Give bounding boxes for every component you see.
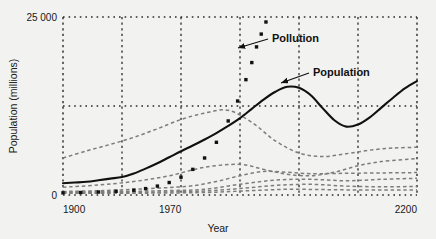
pollution-marker <box>61 191 64 194</box>
pollution-marker <box>156 184 159 187</box>
x-tick-label-1970: 1970 <box>159 204 182 215</box>
pollution-marker <box>215 141 218 144</box>
pollution-marker <box>227 119 230 122</box>
pollution-marker <box>203 156 206 159</box>
pollution-marker <box>168 181 171 184</box>
pollution-marker <box>79 191 82 194</box>
pollution-marker <box>264 20 267 23</box>
y-tick-label-min: 0 <box>51 190 57 201</box>
x-tick-label-1900: 1900 <box>63 204 86 215</box>
y-axis-title: Population (millions) <box>7 59 19 154</box>
population-annotation-label: Population <box>313 66 370 78</box>
chart-figure: PollutionPopulation 25 000 0 1900 1970 2… <box>0 0 436 239</box>
pollution-annotation-label: Pollution <box>272 32 319 44</box>
pollution-marker <box>144 187 147 190</box>
pollution-marker <box>255 45 258 48</box>
pollution-marker <box>236 99 239 102</box>
pollution-marker <box>250 61 253 64</box>
pollution-marker <box>179 176 182 179</box>
world-model-chart: PollutionPopulation 25 000 0 1900 1970 2… <box>0 0 436 239</box>
y-tick-label-max: 25 000 <box>26 12 57 23</box>
x-tick-label-2200: 2200 <box>395 204 418 215</box>
x-axis-title: Year <box>207 222 229 234</box>
pollution-marker <box>191 168 194 171</box>
pollution-marker <box>244 78 247 81</box>
pollution-marker <box>132 188 135 191</box>
pollution-marker <box>114 190 117 193</box>
pollution-marker <box>260 32 263 35</box>
pollution-marker <box>97 190 100 193</box>
